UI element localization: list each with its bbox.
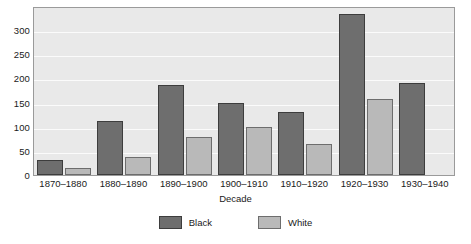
bar-white <box>306 144 332 175</box>
bar-white <box>65 168 91 175</box>
y-axis-tick-label: 250 <box>0 50 30 60</box>
bar-white <box>246 127 272 175</box>
bar-group <box>94 8 154 175</box>
bar-black <box>278 112 304 175</box>
y-axis-tick-label: 150 <box>0 99 30 109</box>
bar-black <box>158 85 184 175</box>
bar-chart-figure: 050100150200250300 1870–18801880–1890189… <box>0 0 471 244</box>
plot-area <box>33 7 455 176</box>
x-axis-tick-label: 1920–1930 <box>341 178 389 190</box>
bar-group <box>335 8 395 175</box>
bar-white <box>186 137 212 175</box>
bar-white <box>125 157 151 175</box>
legend-entry-white: White <box>258 216 312 229</box>
bar-black <box>339 14 365 175</box>
x-axis-tick-label: 1880–1890 <box>100 178 148 190</box>
y-axis-tick-label: 200 <box>0 74 30 84</box>
x-axis-tick-labels: 1870–18801880–18901890–19001900–19101910… <box>33 178 455 192</box>
x-axis-tick-label: 1930–1940 <box>401 178 449 190</box>
bar-black <box>218 103 244 175</box>
legend-swatch-icon <box>159 216 182 229</box>
x-axis-tick-label: 1870–1880 <box>39 178 87 190</box>
x-axis-tick-label: 1910–1920 <box>281 178 329 190</box>
bar-black <box>399 83 425 175</box>
bars-layer <box>34 8 454 175</box>
y-axis-tick-label: 50 <box>0 147 30 157</box>
y-axis-tick-label: 0 <box>0 171 30 181</box>
y-axis-tick-labels: 050100150200250300 <box>0 0 30 244</box>
legend-entry-black: Black <box>159 216 212 229</box>
x-axis-title: Decade <box>0 193 471 205</box>
bar-group <box>215 8 275 175</box>
bar-black <box>97 121 123 175</box>
legend-label: White <box>288 217 312 229</box>
bar-group <box>396 8 455 175</box>
bar-group <box>275 8 335 175</box>
legend-label: Black <box>189 217 212 229</box>
bar-white <box>367 99 393 175</box>
y-axis-tick-label: 100 <box>0 123 30 133</box>
x-axis-tick-label: 1890–1900 <box>160 178 208 190</box>
x-axis-tick-label: 1900–1910 <box>220 178 268 190</box>
bar-black <box>37 160 63 175</box>
bar-group <box>34 8 94 175</box>
y-axis-tick-label: 300 <box>0 26 30 36</box>
legend-swatch-icon <box>258 216 281 229</box>
chart-legend: BlackWhite <box>0 216 471 229</box>
bar-group <box>155 8 215 175</box>
